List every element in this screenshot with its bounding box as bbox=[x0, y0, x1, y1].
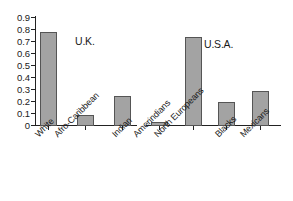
y-tick-label: 0.8 bbox=[4, 25, 30, 35]
x-label-blacks: Blacks bbox=[213, 114, 238, 139]
y-tick-label: 0.3 bbox=[4, 85, 30, 95]
y-tick-label: 0.7 bbox=[4, 37, 30, 47]
y-tick-label: 0.4 bbox=[4, 73, 30, 83]
y-tick-label: 0.1 bbox=[4, 109, 30, 119]
y-tick-label: 0.5 bbox=[4, 61, 30, 71]
x-tick-mark bbox=[85, 126, 86, 130]
y-tick-label: 0.2 bbox=[4, 97, 30, 107]
bar-white bbox=[40, 32, 57, 126]
group-label-usa: U.S.A. bbox=[204, 38, 233, 50]
y-tick-label: 0.9 bbox=[4, 13, 30, 23]
y-tick-label: 0 bbox=[4, 121, 30, 131]
y-axis-line bbox=[35, 16, 36, 126]
bar-chart: 0.9 0.8 0.7 0.6 0.5 0.4 0.3 0.2 0.1 0 Wh… bbox=[0, 0, 293, 201]
y-tick-label: 0.6 bbox=[4, 49, 30, 59]
bar-north-europeans bbox=[185, 37, 202, 126]
group-label-uk: U.K. bbox=[75, 35, 95, 47]
x-label-white: White bbox=[33, 116, 56, 139]
x-tick-mark bbox=[193, 126, 194, 130]
x-tick-mark bbox=[260, 126, 261, 130]
